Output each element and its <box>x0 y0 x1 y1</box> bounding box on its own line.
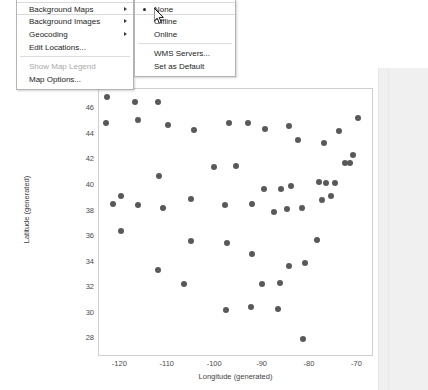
menu-item-background-maps[interactable]: Background Maps <box>17 2 133 15</box>
submenu-item-offline[interactable]: Offline <box>135 15 235 28</box>
menu-item-label: Background Images <box>29 17 100 26</box>
background-maps-submenu[interactable]: NoneOfflineOnlineWMS Servers...Set as De… <box>134 0 236 77</box>
radio-selected-icon <box>143 8 146 11</box>
y-tick-label: 46 <box>66 104 94 112</box>
menu-item-label: Map Options... <box>29 75 81 84</box>
y-tick-label: 42 <box>66 155 94 163</box>
scatter-point[interactable] <box>275 306 281 312</box>
scatter-point[interactable] <box>286 123 292 129</box>
y-tick-label: 38 <box>66 207 94 215</box>
y-axis-ticks: 46444240383634323028 <box>62 88 94 356</box>
scatter-point[interactable] <box>233 163 239 169</box>
menu-item-show-map-legend: Show Map Legend <box>17 60 133 73</box>
scatter-point[interactable] <box>188 196 194 202</box>
y-tick-label: 32 <box>66 283 94 291</box>
scatter-point[interactable] <box>314 237 320 243</box>
scatter-point[interactable] <box>103 120 109 126</box>
chevron-right-icon <box>124 19 127 23</box>
scatter-point[interactable] <box>350 152 356 158</box>
scatter-point[interactable] <box>181 281 187 287</box>
scatter-point[interactable] <box>300 336 306 342</box>
scatter-point[interactable] <box>332 180 338 186</box>
scatter-point[interactable] <box>284 206 290 212</box>
scatter-point[interactable] <box>259 281 265 287</box>
x-tick-label: -90 <box>256 359 267 368</box>
scatter-point[interactable] <box>226 120 232 126</box>
submenu-item-set-as-default[interactable]: Set as Default <box>135 60 235 73</box>
scatter-point[interactable] <box>135 117 141 123</box>
scatter-point[interactable] <box>286 263 292 269</box>
menu-item-label: Geocoding <box>29 30 68 39</box>
scatter-point[interactable] <box>288 183 294 189</box>
map-context-menu[interactable]: Background MapsBackground ImagesGeocodin… <box>16 0 134 90</box>
scatter-point[interactable] <box>319 197 325 203</box>
scatter-point[interactable] <box>261 186 267 192</box>
scatter-point[interactable] <box>316 179 322 185</box>
submenu-item-label: Online <box>154 30 177 39</box>
scatter-point[interactable] <box>132 99 138 105</box>
menu-item-label: Show Map Legend <box>29 62 96 71</box>
scatter-point[interactable] <box>160 205 166 211</box>
scatter-point[interactable] <box>191 127 197 133</box>
scatter-point[interactable] <box>110 201 116 207</box>
scatter-point[interactable] <box>223 307 229 313</box>
submenu-item-label: WMS Servers... <box>154 49 210 58</box>
scatter-point[interactable] <box>156 173 162 179</box>
x-tick-label: -100 <box>207 359 222 368</box>
scatter-point[interactable] <box>245 120 251 126</box>
chevron-right-icon <box>124 32 127 36</box>
scatter-point[interactable] <box>118 193 124 199</box>
x-axis-ticks: -120-110-100-90-80-70 <box>98 359 388 371</box>
scatter-point[interactable] <box>355 115 361 121</box>
scatter-point[interactable] <box>295 137 301 143</box>
scatter-point[interactable] <box>165 122 171 128</box>
scatter-point[interactable] <box>211 164 217 170</box>
menu-item-edit-locations[interactable]: Edit Locations... <box>17 41 133 54</box>
x-axis-label: Longitude (generated) <box>98 372 373 381</box>
scatter-point[interactable] <box>224 240 230 246</box>
scatter-point[interactable] <box>321 140 327 146</box>
x-tick-label: -120 <box>112 359 127 368</box>
scatter-point[interactable] <box>155 99 161 105</box>
x-tick-label: -70 <box>351 359 362 368</box>
y-tick-label: 30 <box>66 309 94 317</box>
menu-item-label: Edit Locations... <box>29 43 86 52</box>
scatter-point[interactable] <box>248 304 254 310</box>
scatter-point[interactable] <box>328 193 334 199</box>
scatter-point[interactable] <box>299 205 305 211</box>
menu-item-map-options[interactable]: Map Options... <box>17 73 133 86</box>
x-tick-label: -80 <box>304 359 315 368</box>
scatter-point[interactable] <box>188 238 194 244</box>
scatter-point[interactable] <box>249 251 255 257</box>
scatter-point[interactable] <box>118 228 124 234</box>
y-tick-label: 44 <box>66 130 94 138</box>
y-tick-label: 36 <box>66 232 94 240</box>
submenu-item-wms-servers[interactable]: WMS Servers... <box>135 47 235 60</box>
submenu-item-online[interactable]: Online <box>135 28 235 41</box>
submenu-item-label: Set as Default <box>154 62 204 71</box>
scatter-point[interactable] <box>277 280 283 286</box>
scatter-point[interactable] <box>323 180 329 186</box>
chevron-right-icon <box>124 7 127 11</box>
submenu-item-none[interactable]: None <box>135 2 235 15</box>
scatter-point[interactable] <box>222 202 228 208</box>
scatter-point[interactable] <box>262 126 268 132</box>
scatter-point[interactable] <box>155 267 161 273</box>
menu-item-label: Background Maps <box>29 5 93 14</box>
plot-area[interactable] <box>98 88 373 356</box>
scatter-point[interactable] <box>104 94 110 100</box>
scatter-point[interactable] <box>135 202 141 208</box>
menu-item-geocoding[interactable]: Geocoding <box>17 28 133 41</box>
x-tick-label: -110 <box>160 359 174 368</box>
menu-separator <box>20 56 130 57</box>
menu-item-background-images[interactable]: Background Images <box>17 15 133 28</box>
scatter-point[interactable] <box>249 201 255 207</box>
y-tick-label: 40 <box>66 181 94 189</box>
scatter-point[interactable] <box>278 186 284 192</box>
scatter-point[interactable] <box>302 260 308 266</box>
scatter-point[interactable] <box>271 209 277 215</box>
scatter-point[interactable] <box>347 160 353 166</box>
y-axis-label: Latitude (generated) <box>22 150 31 270</box>
scatter-point[interactable] <box>336 128 342 134</box>
submenu-item-label: None <box>154 5 173 14</box>
